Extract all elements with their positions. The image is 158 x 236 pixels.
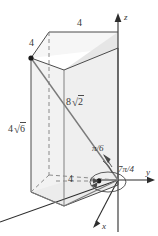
y-axis-arrowhead (147, 177, 155, 183)
label-diagonal-radicand: 2 (78, 95, 84, 107)
label-azimuth-angle: 7π/4 (118, 165, 134, 174)
label-polar-angle: π/6 (92, 144, 104, 153)
label-top-back-edge: 4 (77, 18, 82, 28)
figure-container: 4 4 4√6 4 8√2 π/6 7π/4 z y x (0, 0, 158, 236)
z-axis-arrowhead (115, 13, 122, 22)
label-top-left-edge: 4 (29, 38, 34, 48)
label-x-axis: x (102, 222, 106, 231)
label-diagonal: 8√2 (66, 97, 84, 108)
sqrt-symbol-height: √6 (13, 124, 26, 135)
diagram-svg (0, 0, 158, 236)
label-height-edge: 4√6 (8, 124, 26, 135)
label-y-axis: y (146, 168, 150, 177)
label-bottom-edge: 4 (68, 174, 73, 184)
vertex-point-top (28, 55, 33, 60)
sqrt-symbol-diagonal: √2 (71, 97, 84, 108)
x-axis-arrowhead (93, 220, 100, 228)
label-height-radicand: 6 (20, 122, 26, 134)
label-z-axis: z (124, 13, 128, 22)
